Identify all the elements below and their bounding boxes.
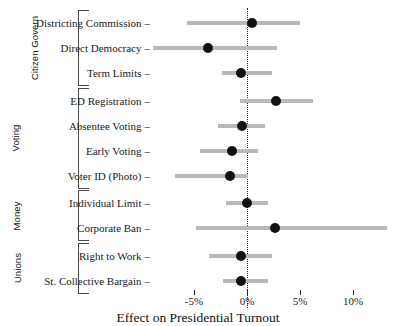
confidence-interval-bar xyxy=(187,21,300,25)
row-label-text: Voter ID (Photo) xyxy=(68,170,142,182)
row-label-text: Absentee Voting xyxy=(69,120,142,132)
row-label-text: Direct Democracy xyxy=(61,42,142,54)
row-label: St. Collective Bargain– xyxy=(0,271,150,291)
y-tick-dash: – xyxy=(145,38,151,58)
row-label: Term Limits– xyxy=(0,63,150,83)
row-label: ED Registration– xyxy=(0,91,150,111)
estimate-row: Direct Democracy– xyxy=(0,38,396,58)
row-label: Early Voting– xyxy=(0,141,150,161)
estimate-row: Early Voting– xyxy=(0,141,396,161)
x-tick-label: 5% xyxy=(293,295,308,307)
row-label-text: Early Voting xyxy=(86,145,142,157)
row-label-text: Term Limits xyxy=(87,67,142,79)
estimate-row: Right to Work– xyxy=(0,246,396,266)
estimate-row: Absentee Voting– xyxy=(0,116,396,136)
row-label-text: St. Collective Bargain xyxy=(44,275,141,287)
estimate-row: ED Registration– xyxy=(0,91,396,111)
row-label: Individual Limit– xyxy=(0,193,150,213)
row-label: Right to Work– xyxy=(0,246,150,266)
point-estimate-marker xyxy=(242,198,252,208)
confidence-interval-bar xyxy=(175,174,248,178)
confidence-interval-bar xyxy=(153,46,277,50)
confidence-interval-bar xyxy=(222,71,273,75)
row-label-text: Right to Work xyxy=(79,250,141,262)
point-estimate-marker xyxy=(236,276,246,286)
estimate-row: Term Limits– xyxy=(0,63,396,83)
estimate-row: St. Collective Bargain– xyxy=(0,271,396,291)
point-estimate-marker xyxy=(225,171,235,181)
estimate-row: Individual Limit– xyxy=(0,193,396,213)
x-tick-label: -5% xyxy=(185,295,203,307)
y-tick-dash: – xyxy=(145,91,151,111)
x-tick-label: 0% xyxy=(240,295,255,307)
row-label-text: ED Registration xyxy=(70,95,141,107)
point-estimate-marker xyxy=(236,251,246,261)
row-label: Absentee Voting– xyxy=(0,116,150,136)
x-axis: Effect on Presidential Turnout -5%0%5%10… xyxy=(0,290,396,326)
point-estimate-marker xyxy=(237,121,247,131)
point-estimate-marker xyxy=(227,146,237,156)
estimate-row: Corporate Ban– xyxy=(0,218,396,238)
estimate-row: Voter ID (Photo)– xyxy=(0,166,396,186)
y-tick-dash: – xyxy=(145,218,151,238)
row-label: Districting Commission– xyxy=(0,13,150,33)
coefficient-plot: Citizen GovernVotingMoneyUnions District… xyxy=(0,0,396,326)
point-estimate-marker xyxy=(247,18,257,28)
point-estimate-marker xyxy=(236,68,246,78)
row-label: Voter ID (Photo)– xyxy=(0,166,150,186)
y-tick-dash: – xyxy=(145,166,151,186)
row-label-text: Individual Limit xyxy=(69,197,141,209)
row-label: Corporate Ban– xyxy=(0,218,150,238)
y-tick-dash: – xyxy=(145,246,151,266)
point-estimate-marker xyxy=(270,223,280,233)
y-tick-dash: – xyxy=(145,141,151,161)
y-tick-dash: – xyxy=(145,63,151,83)
x-axis-title: Effect on Presidential Turnout xyxy=(0,310,396,326)
point-estimate-marker xyxy=(271,96,281,106)
y-tick-dash: – xyxy=(145,13,151,33)
y-tick-dash: – xyxy=(145,193,151,213)
confidence-interval-bar xyxy=(196,226,387,230)
estimate-row: Districting Commission– xyxy=(0,13,396,33)
row-label-text: Corporate Ban xyxy=(77,222,141,234)
y-tick-dash: – xyxy=(145,116,151,136)
y-tick-dash: – xyxy=(145,271,151,291)
x-tick-label: 10% xyxy=(343,295,363,307)
point-estimate-marker xyxy=(203,43,213,53)
plot-area: Districting Commission–Direct Democracy–… xyxy=(0,0,396,290)
row-label-text: Districting Commission xyxy=(36,17,141,29)
row-label: Direct Democracy– xyxy=(0,38,150,58)
